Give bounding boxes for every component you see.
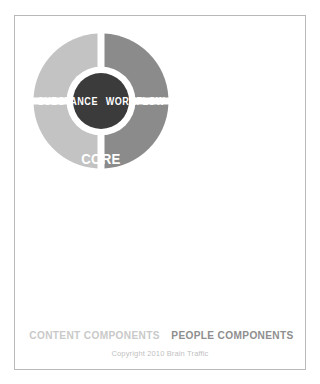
quadrant-label-governance: GOVERNANCE xyxy=(106,221,164,233)
diagram-frame: SUBSTANCE WORKFLOW STRUCTURE GOVERNANCE … xyxy=(14,15,306,370)
quadrant-label-structure: STRUCTURE xyxy=(38,221,96,233)
center-core-circle xyxy=(73,73,129,129)
caption-people-components: PEOPLE COMPONENTS xyxy=(171,329,292,341)
center-label-line2: STRATEGY xyxy=(41,167,161,182)
caption-content-components: CONTENT COMPONENTS xyxy=(29,329,150,341)
quad-wheel: SUBSTANCE WORKFLOW STRUCTURE GOVERNANCE … xyxy=(33,33,169,169)
copyright-notice: Copyright 2010 Brain Traffic xyxy=(15,349,305,358)
